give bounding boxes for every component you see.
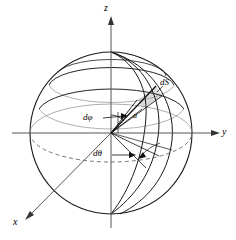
z-axis-arrowhead [108,16,114,25]
y-axis-label: y [222,126,226,137]
d-theta-label: dθ [93,148,102,158]
dS-label: dS [160,77,169,87]
z-axis-label: z [104,2,108,13]
spherical-coordinates-figure: z y x dφ dθ a dS [0,0,236,240]
diagram-canvas [0,0,236,240]
x-axis-label: x [13,216,17,227]
y-axis-arrowhead [211,130,220,136]
d-phi-label: dφ [83,112,92,122]
radius-label: a [133,111,137,120]
